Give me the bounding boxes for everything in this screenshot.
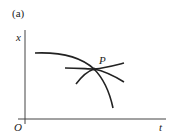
- panel-label: (a): [12, 7, 25, 20]
- diagram: (a) x t O P: [0, 0, 175, 140]
- x-axis-label: t: [159, 121, 163, 133]
- intersection-point: [92, 67, 95, 70]
- y-axis-label: x: [15, 31, 21, 43]
- origin-label: O: [14, 121, 22, 133]
- point-label: P: [98, 54, 106, 66]
